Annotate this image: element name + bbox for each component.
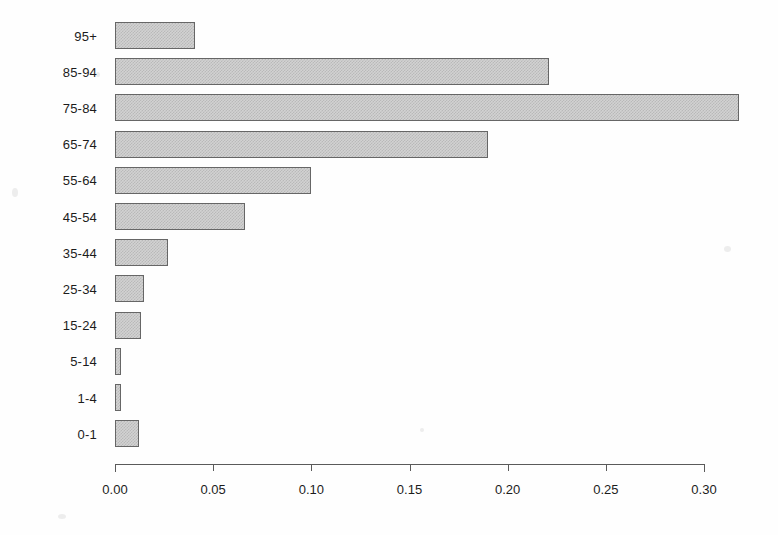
x-axis-tick-0.00	[115, 464, 116, 472]
bar-15-24	[115, 312, 141, 339]
bar-row	[115, 239, 704, 266]
x-axis-tick-0.10	[311, 464, 312, 471]
bar-45-54	[115, 203, 245, 230]
x-axis-ticklabel-0.15: 0.15	[397, 483, 422, 496]
y-axis-label-5-14: 5-14	[7, 355, 97, 368]
x-axis-ticklabel-0.05: 0.05	[201, 483, 226, 496]
y-axis-label-45-54: 45-54	[7, 211, 97, 224]
x-axis-ticklabel-0.25: 0.25	[593, 483, 618, 496]
bar-0-1	[115, 420, 139, 447]
bar-row	[115, 275, 704, 302]
x-axis-ticklabel-0.00: 0.00	[102, 483, 127, 496]
bar-chart-figure: 95+85-9475-8465-7455-6445-5435-4425-3415…	[0, 0, 778, 535]
bar-row	[115, 167, 704, 194]
y-axis-label-95plus: 95+	[7, 30, 97, 43]
y-axis-label-25-34: 25-34	[7, 283, 97, 296]
bar-row	[115, 348, 704, 375]
x-axis-ticklabel-0.20: 0.20	[495, 483, 520, 496]
bar-row	[115, 22, 704, 49]
x-axis-tick-0.05	[213, 464, 214, 471]
bar-row	[115, 203, 704, 230]
scan-artifact	[724, 246, 731, 252]
scan-artifact	[58, 514, 66, 519]
bar-row	[115, 420, 704, 447]
bar-85-94	[115, 58, 549, 85]
plot-area	[115, 18, 704, 458]
bar-55-64	[115, 167, 311, 194]
bar-row	[115, 312, 704, 339]
y-axis-label-1-4: 1-4	[7, 392, 97, 405]
bar-95plus	[115, 22, 195, 49]
y-axis-label-15-24: 15-24	[7, 319, 97, 332]
y-axis-label-35-44: 35-44	[7, 247, 97, 260]
bar-row	[115, 384, 704, 411]
bar-1-4	[115, 384, 121, 411]
bar-5-14	[115, 348, 121, 375]
x-axis-tick-0.15	[410, 464, 411, 471]
bar-65-74	[115, 131, 488, 158]
y-axis-label-65-74: 65-74	[7, 138, 97, 151]
y-axis-label-0-1: 0-1	[7, 428, 97, 441]
x-axis-ticklabel-0.10: 0.10	[299, 483, 324, 496]
x-axis-ticklabel-0.30: 0.30	[691, 483, 716, 496]
bar-row	[115, 58, 704, 85]
bar-row	[115, 131, 704, 158]
bar-row	[115, 94, 704, 121]
y-axis-label-55-64: 55-64	[7, 174, 97, 187]
y-axis-label-85-94: 85-94	[7, 66, 97, 79]
x-axis-tick-0.25	[606, 464, 607, 471]
y-axis-label-group: 95+85-9475-8465-7455-6445-5435-4425-3415…	[0, 18, 97, 458]
x-axis-tick-0.30	[704, 464, 705, 472]
x-axis-tick-0.20	[508, 464, 509, 471]
bar-35-44	[115, 239, 168, 266]
bar-25-34	[115, 275, 144, 302]
bar-75-84	[115, 94, 739, 121]
y-axis-label-75-84: 75-84	[7, 102, 97, 115]
